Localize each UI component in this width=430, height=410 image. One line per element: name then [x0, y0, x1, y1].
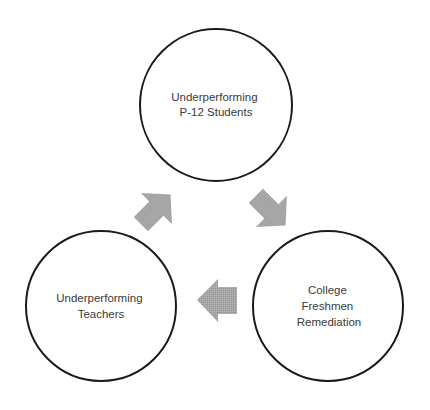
- node-label-line: P-12 Students: [180, 106, 253, 118]
- node-label-line: Underperforming: [56, 292, 142, 304]
- arrow-remediation-to-teachers: [197, 279, 237, 322]
- arrow-students-to-remediation: [240, 180, 301, 241]
- node-underperforming-students: Underperforming P-12 Students: [140, 29, 292, 181]
- arrow-down-right-icon: [240, 180, 301, 241]
- arrow-left-icon: [197, 279, 237, 322]
- node-underperforming-teachers: Underperforming Teachers: [26, 231, 176, 381]
- node-label-line: Teachers: [78, 308, 125, 320]
- node-circle: [140, 29, 292, 181]
- node-label-line: Remediation: [297, 316, 362, 328]
- node-label-line: Freshmen: [302, 300, 354, 312]
- node-label-line: College: [308, 284, 347, 296]
- node-circle: [26, 231, 176, 381]
- arrow-up-right-icon: [125, 179, 186, 240]
- node-college-freshmen-remediation: College Freshmen Remediation: [253, 231, 403, 381]
- cycle-diagram: Underperforming P-12 Students College Fr…: [0, 0, 430, 410]
- arrow-teachers-to-students: [125, 179, 186, 240]
- node-label-line: Underperforming: [171, 91, 257, 103]
